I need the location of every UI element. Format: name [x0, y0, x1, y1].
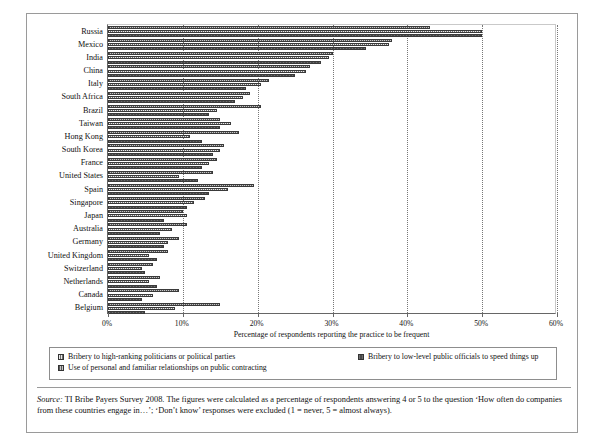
category-label-hong-kong: Hong Kong — [65, 133, 108, 141]
bar — [108, 118, 220, 121]
bar — [108, 171, 213, 174]
bar — [108, 263, 153, 266]
bar — [108, 47, 366, 50]
bar-group: Brazil — [108, 104, 555, 117]
bar — [108, 237, 179, 240]
bar — [108, 241, 168, 244]
bar-group: South Korea — [108, 144, 555, 157]
bar — [108, 140, 202, 143]
bar-group: Mexico — [108, 38, 555, 51]
bar-group: United States — [108, 170, 555, 183]
bar — [108, 144, 224, 147]
bar — [108, 43, 389, 46]
bar — [108, 100, 235, 103]
bar-group: South Africa — [108, 91, 555, 104]
category-label-italy: Italy — [88, 80, 108, 88]
bar — [108, 30, 482, 33]
x-tick-label: 50% — [474, 319, 488, 328]
tick-mark — [557, 313, 558, 317]
bar — [108, 175, 179, 178]
category-label-canada: Canada — [78, 291, 108, 299]
category-label-india: India — [86, 54, 108, 62]
bar-group: Japan — [108, 209, 555, 222]
category-label-south-africa: South Africa — [61, 93, 108, 101]
bar-group: Hong Kong — [108, 130, 555, 143]
bar — [108, 131, 239, 134]
bar — [108, 214, 187, 217]
bar — [108, 149, 220, 152]
x-tick-label: 40% — [399, 319, 413, 328]
bar — [108, 307, 175, 310]
bar — [108, 135, 190, 138]
x-tick-label: 10% — [175, 319, 189, 328]
tick-mark — [407, 313, 408, 317]
bar-group: Spain — [108, 183, 555, 196]
x-tick-label: 0% — [102, 319, 112, 328]
legend-label-2: Use of personal and familiar relationshi… — [68, 363, 267, 374]
category-label-russia: Russia — [81, 27, 108, 35]
gridline-60% — [557, 25, 558, 313]
bar — [108, 79, 269, 82]
bar — [108, 223, 187, 226]
bar — [108, 276, 160, 279]
bar — [108, 166, 202, 169]
category-label-taiwan: Taiwan — [79, 120, 108, 128]
bar — [108, 267, 142, 270]
source-label: Source: — [37, 395, 63, 404]
bar-rows: RussiaMexicoIndiaChinaItalySouth AfricaB… — [108, 25, 555, 313]
bar — [108, 126, 220, 129]
bar-group: Australia — [108, 223, 555, 236]
bar — [108, 153, 213, 156]
bar-group: Belgium — [108, 302, 555, 315]
chart-legend: Bribery to high-ranking politicians or p… — [49, 347, 557, 380]
category-label-united-kingdom: United Kingdom — [48, 251, 108, 259]
bar — [108, 201, 194, 204]
bar — [108, 61, 321, 64]
bar — [108, 113, 209, 116]
bar — [108, 109, 217, 112]
bar — [108, 65, 310, 68]
bar — [108, 232, 160, 235]
category-label-china: China — [83, 67, 108, 75]
bar — [108, 271, 145, 274]
category-label-south-korea: South Korea — [62, 146, 108, 154]
bar — [108, 210, 183, 213]
x-axis-title: Percentage of respondents reporting the … — [107, 330, 556, 339]
bar — [108, 70, 306, 73]
bar — [108, 298, 142, 301]
category-label-belgium: Belgium — [75, 304, 108, 312]
category-label-france: France — [81, 159, 108, 167]
category-label-brazil: Brazil — [83, 107, 108, 115]
bar — [108, 285, 157, 288]
legend-label-1: Bribery to low-level public officials to… — [368, 352, 539, 363]
bar-group: Netherlands — [108, 275, 555, 288]
bar-group: Germany — [108, 236, 555, 249]
bar — [108, 228, 172, 231]
bar — [108, 34, 482, 37]
bar — [108, 122, 231, 125]
bar — [108, 52, 333, 55]
category-label-germany: Germany — [73, 238, 108, 246]
bar — [108, 74, 295, 77]
bar — [108, 188, 228, 191]
bar — [108, 158, 217, 161]
category-label-mexico: Mexico — [78, 41, 108, 49]
x-tick-label: 60% — [549, 319, 563, 328]
legend-swatch-icon-1 — [358, 354, 364, 360]
category-label-spain: Spain — [84, 186, 108, 194]
bar-group: China — [108, 65, 555, 78]
bar — [108, 258, 157, 261]
bar-group: Taiwan — [108, 117, 555, 130]
bar-group: France — [108, 157, 555, 170]
bar — [108, 96, 243, 99]
bar-group: United Kingdom — [108, 249, 555, 262]
bar — [108, 105, 261, 108]
category-label-switzerland: Switzerland — [64, 265, 108, 273]
bar — [108, 83, 261, 86]
bar — [108, 184, 254, 187]
x-tick-label: 30% — [325, 319, 339, 328]
bar-group: Singapore — [108, 196, 555, 209]
bar-group: Russia — [108, 25, 555, 38]
bar — [108, 254, 149, 257]
chart-area: RussiaMexicoIndiaChinaItalySouth AfricaB… — [27, 14, 579, 320]
